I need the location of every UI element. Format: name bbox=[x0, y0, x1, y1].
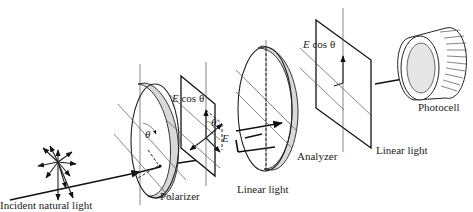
linear-light-label-2: Linear light bbox=[376, 144, 428, 156]
ecos-theta-label-2: E cos θ bbox=[302, 38, 335, 50]
natural-light-star-icon bbox=[38, 146, 76, 200]
analyzer-label: Analyzer bbox=[297, 150, 338, 162]
photocell-icon: Photocell bbox=[398, 28, 467, 113]
e-vector-label: E bbox=[221, 132, 229, 144]
photocell-label: Photocell bbox=[418, 101, 460, 113]
incident-light-label: Incident natural light bbox=[0, 199, 92, 211]
ecos-theta-label-1: E cos θ bbox=[171, 92, 204, 104]
polarizer-label: Polarizer bbox=[160, 190, 200, 202]
polarization-diagram: θ θ E E cos θ Analyzer E cos θ bbox=[0, 0, 473, 212]
polarizer-disk: θ bbox=[114, 64, 186, 205]
linear-light-label-1: Linear light bbox=[237, 183, 289, 195]
linear-light-plate-2: E cos θ bbox=[300, 8, 372, 152]
theta-label-polarizer: θ bbox=[145, 128, 151, 140]
theta-label-plate: θ bbox=[211, 116, 217, 128]
